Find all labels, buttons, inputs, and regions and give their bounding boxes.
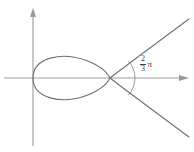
horizontal-axis bbox=[4, 75, 189, 81]
figure-canvas bbox=[0, 0, 194, 152]
angle-label: 2 3 π bbox=[140, 55, 152, 73]
arrow-right-icon bbox=[179, 75, 189, 81]
fraction-denominator: 3 bbox=[140, 65, 146, 73]
fraction-two-thirds: 2 3 bbox=[140, 55, 146, 73]
fraction-numerator: 2 bbox=[140, 55, 146, 63]
strophoid-figure: 2 3 π bbox=[0, 0, 194, 152]
arrow-up-icon bbox=[30, 8, 36, 17]
curve-lower-branch bbox=[110, 78, 189, 137]
pi-symbol: π bbox=[148, 60, 153, 69]
